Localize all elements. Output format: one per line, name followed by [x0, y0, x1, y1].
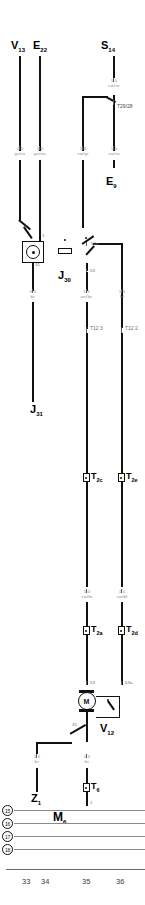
- connector-t12-2-label: T12 2: [125, 326, 138, 331]
- motor-bracket-top: [96, 696, 120, 697]
- component-s14-label: S14: [101, 40, 115, 55]
- component-s14-sub: 14: [108, 47, 115, 53]
- terminal-31-lamp-label: 31: [35, 262, 40, 267]
- component-j31-sub: 31: [36, 411, 43, 417]
- wire-spec-sw-br: 1.0 sw/br: [76, 589, 98, 599]
- bus-line-18: [14, 849, 145, 850]
- index-circle-15: 15: [2, 805, 13, 816]
- component-v12-label: V12: [100, 723, 114, 738]
- tick-motor-53: [86, 681, 87, 685]
- bus-line-bottom-rule: [6, 869, 145, 870]
- component-e22-sub: 22: [40, 47, 47, 53]
- wire-swgr-upper: [82, 97, 84, 151]
- wire-center-to-t12-3: [86, 302, 88, 329]
- connector-t2c-label: T2c: [91, 472, 103, 485]
- index-circle-17: 17: [2, 831, 13, 842]
- wire-spec-ws-br: 1.5 ws/br: [74, 289, 99, 299]
- connector-t2e-label: T2e: [126, 472, 138, 485]
- wire-into-lamp-right: [39, 226, 41, 241]
- wire-tie-top-horizontal: [82, 96, 108, 98]
- wire-spec-sw-ro-upper: 1.5 sw/ro: [103, 146, 125, 156]
- terminal-53a-motor-label: 53a: [125, 680, 132, 685]
- index-circle-18: 18: [2, 844, 13, 855]
- wire-center-to-motor: [86, 635, 88, 685]
- wire-spec-gn-ws: 1.0 gn/ws: [29, 146, 51, 156]
- wire-spec-sw-gr: 1.0 sw/gr: [72, 146, 94, 156]
- component-e22-label: E22: [33, 40, 47, 55]
- wiring-diagram-canvas: V13 E22 S14 1.5 sw/ro T29/28 1.0 gn/ro 1…: [0, 0, 145, 905]
- wire-spec-sw-ro-top: 1.5 sw/ro: [104, 78, 124, 88]
- column-number-35: 35: [82, 877, 90, 886]
- component-z1-label: Z1: [31, 793, 41, 808]
- component-z1-sub: 1: [38, 800, 41, 806]
- wire-s14-to-e9: [113, 160, 115, 168]
- connector-t2d-label: T2d: [126, 625, 138, 638]
- column-number-33: 33: [22, 877, 30, 886]
- component-e9-label: E9: [106, 176, 117, 191]
- wire-t6-down: [86, 792, 88, 806]
- wire-bus-right-upper: [121, 243, 123, 289]
- connector-t2c-box: [83, 473, 90, 482]
- terminal-1-label: 1: [42, 233, 44, 238]
- motor-switch-arm: [107, 700, 115, 710]
- wire-center-long: [86, 333, 88, 475]
- wire-to-t6: [86, 768, 88, 783]
- connector-t29-28-label: T29/28: [117, 104, 133, 109]
- tick-t29-28: [113, 100, 114, 105]
- terminal-53-switch-label: 53: [90, 268, 95, 273]
- component-m6-label: M6: [53, 812, 66, 827]
- wire-to-j31: [32, 302, 34, 402]
- wire-ground-horizontal: [36, 742, 72, 744]
- bus-line-17: [14, 836, 145, 837]
- wire-e22-upper: [39, 56, 41, 151]
- component-v13-label: V13: [11, 40, 25, 55]
- lamp-symbol-dot: [32, 251, 35, 254]
- wire-v13-upper: [19, 56, 21, 151]
- connector-t2d-box: [118, 626, 125, 635]
- column-number-36: 36: [116, 877, 124, 886]
- component-v13-sub: 13: [18, 47, 25, 53]
- component-m6-letter: M: [53, 810, 63, 824]
- connector-t6-label: T6: [91, 782, 100, 795]
- wire-motor-ground-down: [86, 712, 88, 742]
- wire-swgr-mid: [82, 160, 84, 228]
- wire-spec-bl: 1.5 bl: [111, 289, 133, 299]
- wire-z1-stub: [36, 742, 38, 754]
- switch-arm: [85, 245, 94, 255]
- terminal-53-motor-label: 53: [90, 680, 95, 685]
- column-number-34: 34: [41, 877, 49, 886]
- wire-center-t2c-down: [86, 482, 88, 587]
- index-circle-16: 16: [2, 818, 13, 829]
- motor-symbol: M: [78, 692, 96, 710]
- wire-spec-br-t6: 1.5 br: [76, 754, 98, 764]
- component-j31-label: J31: [30, 404, 43, 419]
- wire-z1-down: [36, 768, 38, 792]
- connector-t2a-box: [83, 626, 90, 635]
- relay-j30-dot: [64, 239, 66, 241]
- component-z1-letter: Z: [31, 792, 38, 804]
- wire-spec-sw-bl: 1.0 sw/bl: [111, 589, 133, 599]
- wire-center-to-t2a: [86, 602, 88, 627]
- motor-bracket-right: [119, 696, 120, 718]
- component-j30-sub: 30: [64, 277, 71, 283]
- wire-right-to-t2d: [121, 602, 123, 627]
- wire-v13-mid: [19, 160, 21, 220]
- wire-s14-upper: [113, 56, 115, 78]
- connector-t2e-box: [118, 473, 125, 482]
- wire-spec-br-left: 0.5 br: [22, 289, 44, 299]
- wire-spec-gn-ro: 1.0 gn/ro: [9, 146, 31, 156]
- relay-j30-box: [58, 248, 72, 254]
- wire-right-long: [121, 333, 123, 475]
- connector-t6-box: [83, 783, 90, 792]
- wire-e22-mid: [39, 160, 41, 228]
- connector-t2a-label: T2a: [91, 625, 103, 638]
- component-v12-sub: 12: [107, 730, 114, 736]
- component-j30-label: J30: [58, 270, 71, 285]
- connector-t12-3-label: T12 3: [90, 326, 103, 331]
- wire-spec-br-z1: 1.5 br: [26, 754, 48, 764]
- motor-bracket-bottom: [96, 717, 120, 718]
- wire-lamp-bottom: [32, 263, 34, 291]
- component-e9-sub: 9: [113, 183, 116, 189]
- terminal-t6-1-label: 1: [90, 800, 92, 805]
- wire-right-to-motor-53a: [121, 635, 123, 685]
